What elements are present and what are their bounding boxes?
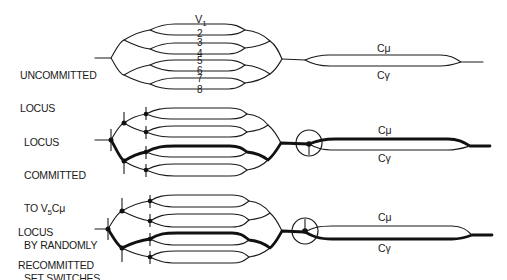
panel-2-left-split-upper — [124, 114, 146, 132]
v8-label: 8 — [197, 84, 203, 95]
panel-3-cgamma-label: Cγ — [378, 242, 392, 254]
locus-switching-diagram: UNCOMMITTED LOCUS LOCUS COMMITTED TO V5C… — [0, 0, 507, 280]
panel-3-v-pair-7-8 — [150, 251, 249, 263]
panel-2-left-split-lower-down — [124, 161, 146, 170]
panel-3-left-split-up — [108, 211, 122, 229]
switch-dot — [148, 199, 153, 204]
panel-2-switches — [109, 107, 149, 177]
switch-dot — [122, 121, 127, 126]
panel-2-v-pair-1-2 — [146, 108, 247, 119]
panel-2-left-split-up — [111, 123, 124, 140]
switch-dot — [144, 150, 149, 155]
switch-dot — [120, 209, 125, 214]
panel-3-left-split-lower-down — [122, 248, 150, 257]
panel-3-switches — [106, 195, 153, 264]
v7-label: 7 — [197, 73, 203, 84]
panel-2-v-pair-7-8 — [146, 164, 247, 176]
switch-dot — [122, 159, 127, 164]
panel-2-cgamma-label: Cγ — [378, 152, 392, 164]
panel-1-left-split-upper — [124, 30, 150, 49]
switch-dot — [120, 246, 125, 251]
panel-1-left-split-main — [111, 40, 124, 75]
panel-3-selected-path — [108, 229, 492, 248]
switch-dot — [144, 130, 149, 135]
panel-3-graph: Cμ Cγ — [95, 195, 492, 264]
panel-3-v6-line — [150, 239, 249, 245]
panel-2-right-merge-lower-down — [247, 160, 268, 170]
panel-1-right-merge-upper — [245, 30, 270, 48]
v3-label: 3 — [197, 37, 203, 48]
panel-1-c-loop — [305, 55, 483, 66]
switch-dot — [106, 227, 111, 232]
panel-2-right-merge-main-up — [268, 125, 281, 143]
switch-dot — [144, 168, 149, 173]
panel-1-right-merge-main — [270, 41, 282, 74]
panel-3-v-pair-1-2 — [150, 195, 249, 207]
panel-3-cmu-line — [305, 226, 472, 235]
panel-1-cmu-label: Cμ — [377, 42, 391, 54]
panel-2-cgamma-line — [309, 144, 470, 150]
switch-dot — [148, 219, 153, 224]
panel-3-right-merge-lower-down — [249, 248, 270, 257]
panel-1-graph: V1 2 3 4 5 6 7 8 Cμ Cγ — [95, 13, 483, 95]
panel-1-cgamma-label: Cγ — [377, 69, 391, 81]
panel-1-right-merge-lower — [245, 65, 270, 83]
switch-dot — [144, 112, 149, 117]
circled-switch-dot — [302, 228, 308, 234]
panel-2-graph: Cμ Cγ — [95, 107, 490, 177]
switch-dot — [148, 255, 153, 260]
diagram-canvas: V1 2 3 4 5 6 7 8 Cμ Cγ — [0, 0, 507, 280]
panel-2-v6-line — [146, 152, 247, 157]
panel-2-right-merge-upper — [247, 114, 268, 132]
switch-dot — [148, 237, 153, 242]
panel-3-cmu-label: Cμ — [378, 211, 392, 223]
circled-switch-dot — [306, 141, 312, 147]
panel-3-left-split-upper — [122, 201, 150, 221]
panel-2-v-pair-3-4 — [146, 126, 247, 137]
panel-3-v-pair-3-4 — [150, 214, 249, 227]
panel-3-right-merge-upper — [249, 201, 270, 220]
switch-dot — [109, 138, 114, 143]
panel-3-right-merge-main-up — [270, 213, 282, 231]
panel-2-cmu-label: Cμ — [378, 124, 392, 136]
v1-label: V1 — [195, 13, 207, 28]
panel-1-vc-link — [282, 59, 305, 60]
panel-1-left-split-lower — [124, 65, 150, 84]
